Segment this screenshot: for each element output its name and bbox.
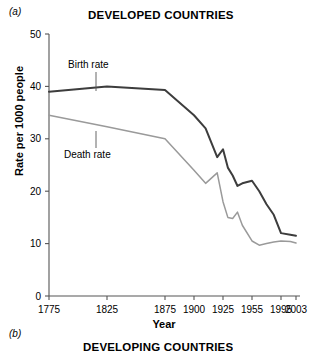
y-tick-label: 0 bbox=[35, 291, 41, 302]
y-tick-group: 01020304050 bbox=[30, 29, 49, 302]
chart-title-developing: DEVELOPING COUNTRIES bbox=[83, 341, 233, 353]
x-tick-label: 1875 bbox=[154, 304, 177, 315]
y-tick-label: 10 bbox=[30, 238, 42, 249]
series-group bbox=[49, 86, 296, 245]
x-axis-title: Year bbox=[0, 318, 328, 330]
series-line-birth-rate bbox=[49, 86, 296, 235]
x-tick-label: 1825 bbox=[96, 304, 119, 315]
panel-b-label: (b) bbox=[9, 328, 21, 339]
x-tick-group: 17751825187519001925195519952003 bbox=[38, 296, 308, 315]
x-axis: 17751825187519001925195519952003 bbox=[38, 296, 308, 315]
death-rate-annotation: Death rate bbox=[64, 149, 111, 160]
x-tick-label: 1925 bbox=[212, 304, 235, 315]
y-tick-label: 20 bbox=[30, 186, 42, 197]
annotation-group: Birth rate Death rate bbox=[64, 59, 111, 160]
y-axis: 01020304050 bbox=[30, 29, 49, 302]
y-tick-label: 40 bbox=[30, 81, 42, 92]
x-tick-label: 2003 bbox=[285, 304, 308, 315]
x-tick-label: 1955 bbox=[241, 304, 264, 315]
y-tick-label: 50 bbox=[30, 29, 42, 40]
series-line-death-rate bbox=[49, 115, 296, 245]
y-tick-label: 30 bbox=[30, 133, 42, 144]
x-tick-label: 1775 bbox=[38, 304, 61, 315]
birth-rate-annotation: Birth rate bbox=[68, 59, 109, 70]
x-tick-label: 1900 bbox=[183, 304, 206, 315]
